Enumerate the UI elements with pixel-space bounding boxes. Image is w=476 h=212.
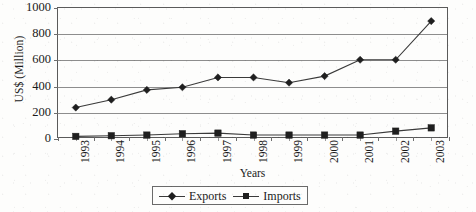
y-axis-tick-label: 0 — [9, 132, 51, 145]
y-axis-tick-label: 1000 — [9, 1, 51, 14]
x-axis-tick-label: 1993 — [80, 140, 92, 163]
data-point-exports-1999 — [285, 79, 292, 86]
data-point-exports-2001 — [357, 56, 364, 63]
y-axis-tick-label: 800 — [9, 27, 51, 40]
data-point-imports-2003 — [428, 125, 434, 131]
legend-entry-exports[interactable]: Exports — [159, 190, 226, 202]
x-axis-tick-label: 2003 — [435, 140, 447, 163]
legend-label: Exports — [189, 190, 226, 202]
legend-label: Imports — [263, 190, 300, 202]
legend-marker-square-icon — [233, 190, 259, 202]
legend-marker-diamond-icon — [159, 190, 185, 202]
x-axis-tick-label: 1994 — [115, 140, 127, 163]
x-axis-title: Years — [57, 167, 448, 179]
x-axis-tick-label: 1997 — [222, 140, 234, 163]
x-axis-tick-label: 1995 — [151, 140, 163, 163]
data-point-exports-1994 — [108, 96, 115, 103]
y-axis-tick-label: 400 — [9, 79, 51, 92]
data-point-imports-2001 — [357, 132, 363, 138]
chart-legend: ExportsImports — [152, 186, 308, 205]
data-point-imports-2000 — [321, 132, 327, 138]
data-point-imports-1995 — [144, 132, 150, 138]
x-axis-tick-mark — [449, 137, 450, 141]
data-point-exports-1996 — [179, 84, 186, 91]
x-axis-tick-label: 1998 — [258, 140, 270, 163]
series-layer — [58, 8, 449, 139]
data-point-imports-1993 — [73, 133, 79, 139]
x-axis-tick-label: 2002 — [400, 140, 412, 163]
data-point-imports-1996 — [179, 131, 185, 137]
legend-entry-imports[interactable]: Imports — [233, 190, 300, 202]
data-point-imports-1997 — [215, 130, 221, 136]
data-point-exports-1993 — [72, 104, 79, 111]
x-axis-tick-label: 1996 — [186, 140, 198, 163]
data-point-exports-2000 — [321, 73, 328, 80]
x-axis-tick-label: 2000 — [329, 140, 341, 163]
series-line-exports — [76, 21, 431, 107]
data-point-exports-1997 — [214, 74, 221, 81]
data-point-imports-1998 — [250, 132, 256, 138]
x-axis-tick-label: 1999 — [293, 140, 305, 163]
data-point-exports-1998 — [250, 74, 257, 81]
x-axis-tick-label: 2001 — [364, 140, 376, 163]
data-point-imports-1999 — [286, 132, 292, 138]
data-point-imports-1994 — [108, 133, 114, 139]
data-point-exports-1995 — [143, 86, 150, 93]
plot-area — [57, 7, 448, 138]
y-axis-tick-label: 200 — [9, 106, 51, 119]
line-chart: US$ (Million) 02004006008001000 19931994… — [0, 0, 476, 212]
y-axis-tick-label: 600 — [9, 53, 51, 66]
y-axis-tick-labels: 02004006008001000 — [6, 0, 51, 212]
data-point-imports-2002 — [392, 128, 398, 134]
